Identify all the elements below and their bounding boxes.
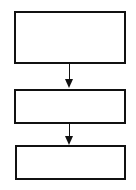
flowchart-box-2 (14, 89, 126, 124)
flowchart-box-1 (14, 11, 126, 64)
flowchart-box-3 (15, 145, 126, 180)
arrow-down-icon (65, 136, 73, 145)
arrow-down-icon (65, 79, 73, 88)
